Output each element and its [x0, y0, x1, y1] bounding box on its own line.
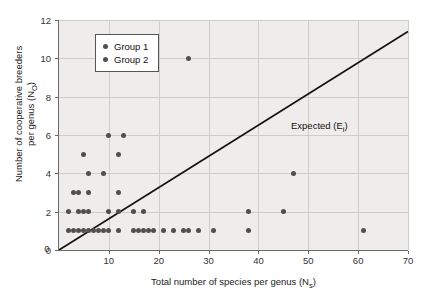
x-axis-tick — [258, 251, 259, 254]
y-axis-tick — [55, 212, 58, 213]
x-axis-tick — [358, 251, 359, 254]
x-axis-title-tail: ) — [313, 276, 316, 287]
x-axis-tick-label: 10 — [104, 255, 115, 266]
x-axis-tick — [209, 251, 210, 254]
y-axis-title-line2: per genus (NO) — [25, 14, 41, 214]
y-axis-tick-label: 8 — [31, 91, 51, 102]
x-axis-tick-label: 70 — [403, 255, 414, 266]
x-axis-line — [58, 250, 408, 251]
y-axis-tick-label: 0 — [31, 245, 51, 256]
data-point — [291, 171, 296, 176]
x-axis-tick — [408, 251, 409, 254]
y-axis-tick-label: 4 — [31, 168, 51, 179]
y-axis-tick — [55, 97, 58, 98]
y-axis-title-tail: ) — [25, 82, 36, 85]
y-axis-tick — [55, 173, 58, 174]
x-axis-title-main: Total number of species per genus (N — [151, 276, 309, 287]
x-axis-tick — [308, 251, 309, 254]
legend-marker-icon — [103, 44, 108, 49]
x-axis-tick-label: 30 — [203, 255, 214, 266]
legend-entry-group-2: Group 2 — [103, 53, 148, 66]
data-point — [106, 133, 111, 138]
y-axis-tick-label: 12 — [31, 15, 51, 26]
y-axis-tick-label: 6 — [31, 130, 51, 141]
y-axis-tick — [55, 20, 58, 21]
x-axis-title: Total number of species per genus (Ns) — [59, 276, 408, 290]
y-axis-tick — [55, 250, 58, 251]
expected-label-main: Expected (E — [291, 120, 343, 131]
data-point — [361, 228, 366, 233]
y-axis-title-subscript: O — [30, 85, 39, 91]
legend-label-group-1: Group 1 — [114, 41, 148, 52]
scatter-plot-figure: Expected (Ei) Total number of species pe… — [0, 0, 430, 302]
x-axis-tick — [109, 251, 110, 254]
gridline-vertical — [408, 20, 409, 250]
y-axis-title: Number of cooperative breeders per genus… — [13, 14, 41, 214]
x-axis-tick-label: 60 — [353, 255, 364, 266]
y-axis-line — [58, 20, 59, 251]
y-axis-tick-label: 10 — [31, 53, 51, 64]
x-axis-tick-label: 50 — [303, 255, 314, 266]
y-axis-tick — [55, 58, 58, 59]
x-axis-tick-label: 40 — [253, 255, 264, 266]
legend-entry-group-1: Group 1 — [103, 40, 148, 53]
data-point — [186, 56, 191, 61]
y-axis-tick-label: 2 — [31, 206, 51, 217]
expected-label-tail: ) — [344, 120, 347, 131]
expected-line-label: Expected (Ei) — [291, 120, 348, 134]
y-axis-tick — [55, 135, 58, 136]
legend: Group 1 Group 2 — [95, 34, 159, 72]
legend-marker-icon — [103, 57, 108, 62]
data-point — [121, 133, 126, 138]
x-axis-tick-label: 20 — [153, 255, 164, 266]
legend-label-group-2: Group 2 — [114, 54, 148, 65]
y-axis-title-line1: Number of cooperative breeders — [13, 14, 25, 214]
x-axis-tick — [159, 251, 160, 254]
data-point — [281, 209, 286, 214]
